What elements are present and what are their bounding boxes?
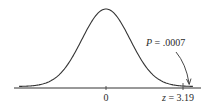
normal-curve-diagram: 0 z = 3.19 P = .0007 bbox=[0, 0, 211, 109]
tick-label-zero: 0 bbox=[104, 92, 109, 103]
normal-distribution-figure: 0 z = 3.19 P = .0007 bbox=[0, 0, 211, 109]
p-value-annotation: P = .0007 bbox=[145, 37, 185, 48]
annotation-arrow bbox=[176, 52, 189, 83]
tick-label-z: z = 3.19 bbox=[161, 92, 194, 103]
